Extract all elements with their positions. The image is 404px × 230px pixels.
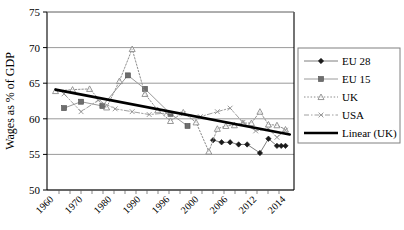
x-tick-label: 1996 bbox=[149, 194, 171, 216]
legend: EU 28EU 15UKUSALinear (UK) bbox=[298, 48, 400, 143]
y-tick-label: 55 bbox=[29, 148, 41, 160]
plot-background bbox=[47, 12, 294, 190]
chart-container: 75 70 65 60 55 50 Wages as % of GDP bbox=[0, 0, 404, 230]
y-tick-label: 60 bbox=[29, 113, 41, 125]
x-tick-label: 1970 bbox=[62, 194, 84, 216]
series-point bbox=[185, 123, 190, 128]
y-tick-label: 65 bbox=[29, 77, 41, 89]
y-tick-label: 75 bbox=[29, 6, 41, 18]
y-tick-label: 70 bbox=[29, 42, 41, 54]
y-tick-label: 50 bbox=[29, 184, 41, 196]
x-tick-label: 2000 bbox=[178, 194, 200, 216]
y-axis-title: Wages as % of GDP bbox=[3, 52, 17, 150]
x-tick-label: 1980 bbox=[91, 194, 113, 216]
series-point bbox=[62, 106, 67, 111]
x-tick-label: 1990 bbox=[120, 194, 142, 216]
x-tick-label: 2006 bbox=[207, 194, 229, 216]
x-tick-label: 2012 bbox=[236, 194, 258, 216]
legend-label: USA bbox=[342, 109, 364, 121]
legend-label: Linear (UK) bbox=[342, 127, 397, 140]
legend-marker bbox=[319, 77, 324, 82]
x-minor-tick-marks bbox=[59, 190, 279, 194]
series-point bbox=[100, 103, 105, 108]
y-tick-marks bbox=[43, 12, 47, 190]
y-tick-labels: 75 70 65 60 55 50 bbox=[29, 6, 41, 196]
x-tick-label: 2014 bbox=[265, 194, 287, 216]
wages-gdp-line-chart: 75 70 65 60 55 50 Wages as % of GDP bbox=[0, 0, 404, 230]
series-point bbox=[125, 73, 130, 78]
legend-label: EU 28 bbox=[342, 55, 371, 67]
series-point bbox=[79, 99, 84, 104]
x-tick-label: 1960 bbox=[33, 194, 55, 216]
legend-label: UK bbox=[342, 91, 358, 103]
legend-label: EU 15 bbox=[342, 73, 371, 85]
x-tick-labels: 1960 1970 1980 1990 1996 2000 2006 2012 … bbox=[33, 194, 287, 216]
